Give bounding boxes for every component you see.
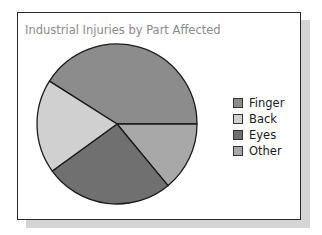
pie-chart <box>0 0 322 235</box>
pie-slices <box>37 44 197 204</box>
